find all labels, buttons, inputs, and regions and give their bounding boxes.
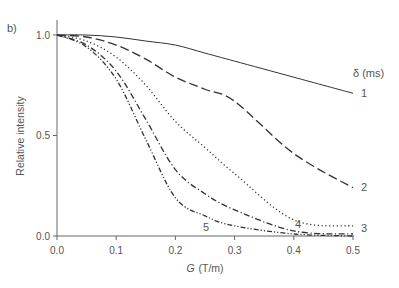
x-axis-title: G(T/m) [186, 262, 223, 274]
x-tick-label: 0.2 [168, 245, 182, 256]
x-tick-label: 0.1 [109, 245, 123, 256]
axes: 0.00.10.20.30.40.5 0.00.51.0 [36, 20, 360, 256]
series-lines [57, 35, 353, 236]
series-label-1: 1 [361, 87, 367, 99]
x-tick-label: 0.4 [287, 245, 301, 256]
x-axis-title-unit: (T/m) [199, 262, 224, 274]
x-ticks: 0.00.10.20.30.40.5 [50, 236, 360, 256]
series-line-1 [57, 35, 353, 93]
series-label-4: 4 [295, 218, 301, 230]
panel-label: b) [7, 22, 17, 34]
x-axis-title-variable: G [186, 262, 194, 274]
relative-intensity-chart: b) 0.00.10.20.30.40.5 0.00.51.0 Relative… [0, 0, 399, 288]
y-tick-label: 1.0 [36, 30, 50, 41]
series-line-2 [57, 35, 353, 188]
series-line-4 [57, 35, 353, 234]
chart-canvas: b) 0.00.10.20.30.40.5 0.00.51.0 Relative… [0, 0, 399, 288]
y-ticks: 0.00.51.0 [36, 30, 57, 242]
series-label-2: 2 [361, 181, 367, 193]
series-line-3 [57, 35, 353, 226]
x-tick-label: 0.0 [50, 245, 64, 256]
legend-title: δ (ms) [353, 67, 384, 79]
series-label-5: 5 [203, 221, 209, 233]
y-tick-label: 0.0 [36, 231, 50, 242]
x-tick-label: 0.3 [228, 245, 242, 256]
series-line-5 [57, 35, 353, 236]
y-axis-title: Relative intensity [14, 96, 26, 176]
series-label-3: 3 [361, 222, 367, 234]
y-tick-label: 0.5 [36, 130, 50, 141]
x-tick-label: 0.5 [346, 245, 360, 256]
